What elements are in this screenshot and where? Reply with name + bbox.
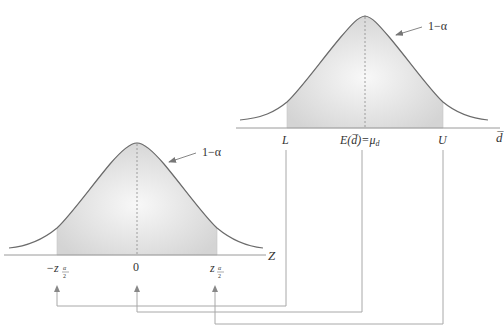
arrowhead-up-icon [212, 285, 218, 292]
top-shaded-area [287, 16, 443, 128]
tick-label-L: L [281, 133, 289, 147]
top-area-label: 1−α [428, 19, 448, 33]
bottom-area-label: 1−α [202, 145, 222, 159]
tick-label-zero: 0 [133, 260, 139, 274]
tick-label-U: U [438, 133, 448, 147]
top-area-pointer-arrow [396, 27, 422, 35]
tick-label-neg-z: −z [46, 261, 59, 275]
tick-label-z-sub-den: 2 [218, 273, 221, 279]
tick-label-z-sub-num: α [218, 265, 222, 271]
arrowhead-up-icon [54, 285, 60, 292]
top-axis-label: d̅ [496, 130, 504, 145]
top-distribution: 1−α d̅ L E(d̅)=μd U [236, 16, 504, 148]
diagram-canvas: 1−α d̅ L E(d̅)=μd U 1−α Z −z α 2 0 z α 2 [0, 0, 504, 335]
tick-label-z: z [209, 261, 215, 275]
arrowhead-up-icon [134, 285, 140, 292]
tick-label-expected-value: E(d̅)=μd [339, 133, 380, 148]
connector-arrowheads [54, 285, 218, 292]
tick-label-neg-z-sub-den: 2 [63, 273, 66, 279]
bottom-distribution: 1−α Z −z α 2 0 z α 2 [4, 143, 276, 279]
connector-U-to-z [215, 150, 443, 324]
bottom-area-pointer-arrow [169, 153, 196, 162]
bottom-axis-label: Z [268, 248, 276, 263]
tick-label-neg-z-sub-num: α [63, 265, 67, 271]
bottom-shaded-area [57, 143, 217, 255]
